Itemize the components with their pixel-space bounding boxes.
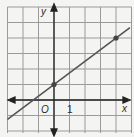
- data-point: [51, 82, 56, 87]
- origin-label: O: [41, 104, 49, 115]
- tick-label-1: 1: [67, 104, 73, 115]
- y-axis-label: y: [40, 6, 47, 17]
- x-axis-label: x: [121, 103, 128, 114]
- y-axis-up-arrow-icon: [51, 4, 57, 11]
- x-axis-left-arrow-icon: [8, 97, 15, 103]
- coordinate-plane: y x O 1: [0, 0, 134, 137]
- data-point: [113, 35, 118, 40]
- y-axis-down-arrow-icon: [51, 129, 57, 136]
